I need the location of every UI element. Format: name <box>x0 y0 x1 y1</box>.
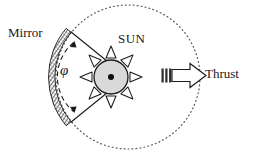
figure-canvas: Mirror SUN Thrust φ <box>0 0 257 153</box>
thrust-tail-bars <box>162 69 172 83</box>
sun-ray-n <box>106 46 116 58</box>
thrust-arrow <box>172 64 206 88</box>
sun-center-dot <box>108 74 114 80</box>
angle-arrowhead-lower <box>70 107 77 114</box>
sun-ray-e <box>130 72 142 82</box>
sun-ray-s <box>106 96 116 108</box>
angle-label-phi: φ <box>60 62 68 79</box>
sun-ray-w <box>80 72 92 82</box>
mirror-leader-line <box>50 31 62 33</box>
thrust-label: Thrust <box>205 66 239 82</box>
mirror-label: Mirror <box>8 25 43 41</box>
sun-label: SUN <box>118 31 145 47</box>
